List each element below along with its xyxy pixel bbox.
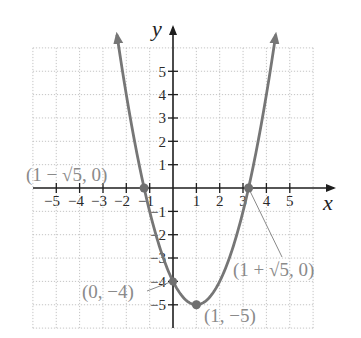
label-right-root: (1 + √5, 0): [233, 259, 314, 281]
point-vertex: [192, 300, 201, 309]
svg-text:−3: −3: [91, 193, 107, 209]
svg-text:5: 5: [286, 193, 294, 209]
svg-text:2: 2: [159, 134, 167, 150]
svg-text:4: 4: [263, 193, 271, 209]
svg-text:1: 1: [159, 157, 167, 173]
svg-text:−2: −2: [114, 193, 130, 209]
svg-text:5: 5: [159, 64, 167, 80]
label-vertex: (1, −5): [204, 305, 256, 327]
svg-text:−5: −5: [44, 193, 60, 209]
label-left-root: (1 − √5, 0): [26, 164, 107, 186]
point-right-root: [244, 184, 253, 193]
svg-text:−4: −4: [68, 193, 84, 209]
svg-text:3: 3: [159, 110, 167, 126]
y-axis-label: y: [150, 16, 162, 41]
point-left-root: [140, 184, 149, 193]
x-tick-labels: −5 −4 −3 −2 −1 1 2 3 4 5: [44, 193, 294, 209]
label-y-intercept: (0, −4): [82, 281, 134, 303]
svg-text:4: 4: [159, 87, 167, 103]
svg-text:−5: −5: [150, 297, 166, 313]
svg-text:1: 1: [193, 193, 201, 209]
point-y-intercept: [169, 277, 177, 285]
svg-text:2: 2: [216, 193, 224, 209]
parabola-chart: x y −5 −4 −3 −2 −1 1 2 3 4 5: [0, 0, 361, 338]
x-axis-label: x: [322, 190, 333, 215]
